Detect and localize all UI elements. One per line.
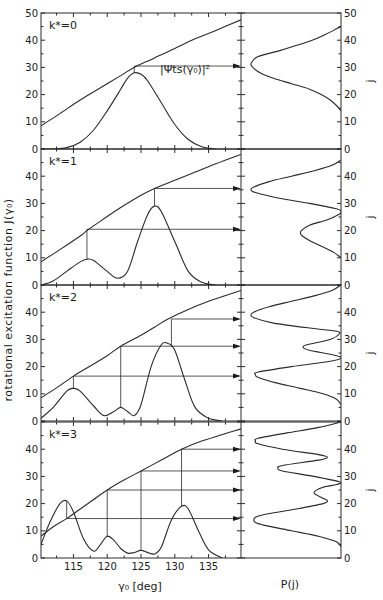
j-tick-label: 30 bbox=[344, 471, 357, 482]
j-tick-label: 30 bbox=[344, 62, 357, 73]
y-tick-label: 40 bbox=[25, 444, 38, 455]
j-tick-label: 0 bbox=[344, 416, 350, 427]
wavefunction-curve bbox=[41, 73, 215, 150]
j-tick-label: 20 bbox=[344, 361, 357, 372]
y-tick-label: 10 bbox=[25, 252, 38, 263]
panel-k0: 0102030405001020304050jk*=0|Ψts(γ₀)|² bbox=[25, 8, 377, 155]
x-axis-label: γ₀ [deg] bbox=[118, 580, 162, 593]
x-tick-label: 115 bbox=[64, 561, 83, 572]
j-gamma-curve bbox=[41, 154, 241, 262]
wavefunction-curve bbox=[41, 500, 222, 558]
p-of-j-curve bbox=[251, 285, 342, 405]
panel-frame bbox=[41, 285, 341, 421]
j-tick-label: 30 bbox=[344, 198, 357, 209]
y-tick-label: 0 bbox=[32, 280, 38, 291]
y-tick-label: 40 bbox=[25, 35, 38, 46]
j-tick-label: 40 bbox=[344, 171, 357, 182]
wavefunction-annotation: |Ψts(γ₀)|² bbox=[160, 63, 210, 76]
panel-title: k*=0 bbox=[49, 19, 77, 32]
j-tick-label: 0 bbox=[344, 280, 350, 291]
j-tick-label: 40 bbox=[344, 444, 357, 455]
j-tick-label: 0 bbox=[344, 553, 350, 564]
figure-canvas: 0102030405001020304050jk*=0|Ψts(γ₀)|²010… bbox=[0, 0, 383, 600]
panel-k1: 010203040010203040jk*=1 bbox=[25, 149, 377, 291]
y-tick-label: 20 bbox=[25, 89, 38, 100]
p-of-j-curve bbox=[251, 160, 341, 258]
y-tick-label: 20 bbox=[25, 361, 38, 372]
arrowhead-icon bbox=[233, 468, 241, 473]
panel-k3: 010203040010203040jk*=3115120125130135 bbox=[25, 422, 377, 572]
x-tick-label: 125 bbox=[131, 561, 150, 572]
arrowhead-icon bbox=[233, 488, 241, 493]
panel-k2: 010203040010203040jk*=2 bbox=[25, 285, 377, 427]
p-of-j-curve bbox=[254, 422, 341, 547]
j-tick-label: 0 bbox=[344, 144, 350, 155]
p-of-j-axis-label: P(j) bbox=[281, 578, 299, 591]
y-tick-label: 10 bbox=[25, 116, 38, 127]
y-tick-label: 10 bbox=[25, 525, 38, 536]
y-tick-label: 0 bbox=[32, 144, 38, 155]
j-tick-label: 10 bbox=[344, 388, 357, 399]
j-tick-label: 50 bbox=[344, 8, 357, 19]
y-tick-label: 40 bbox=[25, 307, 38, 318]
j-tick-label: 10 bbox=[344, 252, 357, 263]
x-tick-label: 135 bbox=[199, 561, 218, 572]
arrowhead-icon bbox=[233, 317, 241, 322]
y-tick-label: 30 bbox=[25, 62, 38, 73]
panel-frame bbox=[41, 149, 341, 285]
j-tick-label: 20 bbox=[344, 89, 357, 100]
y-tick-label: 50 bbox=[25, 8, 38, 19]
j-tick-label: 20 bbox=[344, 225, 357, 236]
p-of-j-curve bbox=[251, 27, 341, 111]
y-tick-label: 20 bbox=[25, 225, 38, 236]
j-gamma-curve bbox=[41, 290, 241, 398]
j-tick-label: 40 bbox=[344, 307, 357, 318]
j-tick-label: 10 bbox=[344, 116, 357, 127]
j-axis-label: j bbox=[364, 351, 377, 355]
j-axis-label: j bbox=[364, 488, 377, 492]
j-gamma-curve bbox=[41, 20, 241, 126]
j-tick-label: 20 bbox=[344, 498, 357, 509]
x-tick-label: 130 bbox=[165, 561, 184, 572]
y-tick-label: 0 bbox=[32, 553, 38, 564]
panel-title: k*=2 bbox=[49, 291, 77, 304]
panel-frame bbox=[41, 13, 341, 149]
arrowhead-icon bbox=[233, 447, 241, 452]
y-tick-label: 30 bbox=[25, 471, 38, 482]
y-tick-label: 40 bbox=[25, 171, 38, 182]
arrowhead-icon bbox=[233, 374, 241, 379]
j-tick-label: 30 bbox=[344, 334, 357, 345]
y-tick-label: 20 bbox=[25, 498, 38, 509]
j-tick-label: 10 bbox=[344, 525, 357, 536]
y-tick-label: 30 bbox=[25, 334, 38, 345]
x-tick-label: 120 bbox=[98, 561, 117, 572]
arrowhead-icon bbox=[233, 344, 241, 349]
y-tick-label: 30 bbox=[25, 198, 38, 209]
y-tick-label: 0 bbox=[32, 416, 38, 427]
j-tick-label: 40 bbox=[344, 35, 357, 46]
panel-title: k*=1 bbox=[49, 155, 77, 168]
y-axis-label: rotational excitation function J(γ₀) bbox=[2, 198, 15, 401]
panel-title: k*=3 bbox=[49, 428, 77, 441]
y-tick-label: 10 bbox=[25, 388, 38, 399]
panels-group: 0102030405001020304050jk*=0|Ψts(γ₀)|²010… bbox=[25, 8, 377, 573]
j-axis-label: j bbox=[364, 79, 377, 83]
wavefunction-curve bbox=[41, 342, 222, 421]
j-axis-label: j bbox=[364, 215, 377, 219]
